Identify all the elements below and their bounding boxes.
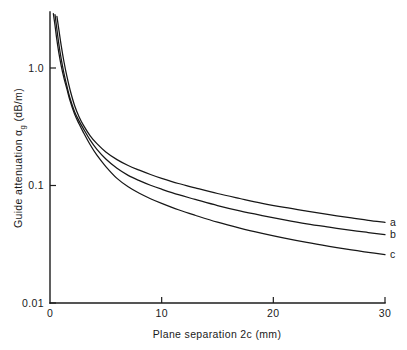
x-axis-title: Plane separation 2c (mm): [153, 328, 282, 340]
curve-label-c: c: [390, 248, 395, 260]
y-axis-title: Guide attenuation αg (dB/m): [12, 88, 27, 228]
y-axis-title-units: (dB/m): [12, 88, 24, 122]
data-curve-b: [55, 15, 385, 235]
y-axis-tick-labels: 1.00.10.01: [22, 62, 44, 309]
x-tick-label: 30: [379, 307, 391, 319]
figure-container: 1.00.10.01 0102030 abc Plane separation …: [0, 0, 407, 350]
y-tick-label: 0.01: [22, 297, 44, 309]
x-tick-label: 10: [155, 307, 167, 319]
y-axis-title-main: Guide attenuation: [12, 139, 24, 228]
x-tick-label: 20: [267, 307, 279, 319]
data-curve-c: [53, 14, 385, 255]
y-tick-label: 0.1: [28, 179, 44, 191]
y-axis-ticks: [50, 68, 56, 303]
x-axis-tick-labels: 0102030: [47, 307, 391, 319]
y-tick-label: 1.0: [28, 62, 44, 74]
data-curves-group: [53, 14, 385, 255]
line-chart: 1.00.10.01 0102030 abc Plane separation …: [0, 0, 407, 350]
curve-label-a: a: [390, 216, 396, 228]
x-tick-label: 0: [47, 307, 53, 319]
svg-text:Guide attenuation αg (dB/m): Guide attenuation αg (dB/m): [12, 88, 27, 228]
x-axis-ticks: [162, 297, 385, 303]
data-curve-a: [57, 16, 385, 222]
curve-end-labels: abc: [390, 216, 396, 260]
curve-label-b: b: [390, 228, 396, 240]
